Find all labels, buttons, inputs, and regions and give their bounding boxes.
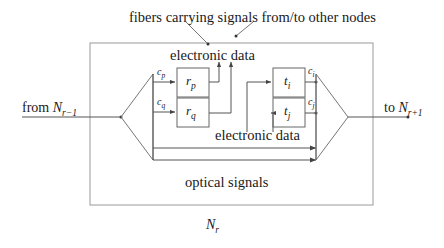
receiver-output-paths — [209, 62, 231, 113]
input-port-label: from Nr−1 — [22, 101, 77, 118]
caption-leader-lines — [186, 22, 253, 44]
node-name-base: N — [206, 217, 215, 232]
ti-sub: i — [288, 81, 291, 91]
top-caption: fibers carrying signals from/to other no… — [129, 10, 376, 25]
channel-label-cj: cj — [308, 97, 315, 110]
input-port-base: N — [53, 100, 62, 115]
figure-canvas: fibers carrying signals from/to other no… — [0, 0, 444, 248]
optical-combiner — [316, 74, 348, 160]
diagram-vector-layer — [0, 0, 444, 248]
rq-sub: q — [191, 111, 196, 121]
cq-sub: q — [161, 101, 165, 110]
cj-sub: j — [312, 101, 314, 110]
node-name-label: Nr — [206, 218, 219, 235]
optical-signals-label: optical signals — [185, 175, 268, 190]
optical-splitter — [121, 74, 153, 160]
transmitter-box-ti-label: ti — [284, 74, 290, 91]
electronic-data-label-middle: electronic data — [215, 128, 300, 143]
cp-sub: p — [161, 71, 165, 80]
receiver-box-rp-label: rp — [186, 74, 196, 91]
input-port-prefix: from — [22, 100, 53, 115]
output-port-label: to Nr+1 — [384, 101, 423, 118]
output-port-prefix: to — [384, 100, 398, 115]
output-port-base: N — [398, 100, 407, 115]
transmitter-box-tj-label: tj — [284, 104, 290, 121]
channel-label-ci: ci — [308, 66, 315, 79]
transmitter-output-paths — [305, 74, 316, 160]
tj-sub: j — [288, 111, 291, 121]
channel-label-cq: cq — [157, 97, 165, 110]
node-name-subscript: r — [215, 225, 219, 235]
channel-label-cp: cp — [157, 67, 165, 80]
receiver-box-rq-label: rq — [186, 104, 196, 121]
input-port-subscript: r−1 — [62, 108, 77, 118]
ci-sub: i — [312, 70, 314, 79]
output-port-subscript: r+1 — [408, 108, 423, 118]
transmitter-input-paths — [247, 82, 273, 132]
electronic-data-label-top: electronic data — [170, 48, 255, 63]
rp-sub: p — [191, 81, 196, 91]
